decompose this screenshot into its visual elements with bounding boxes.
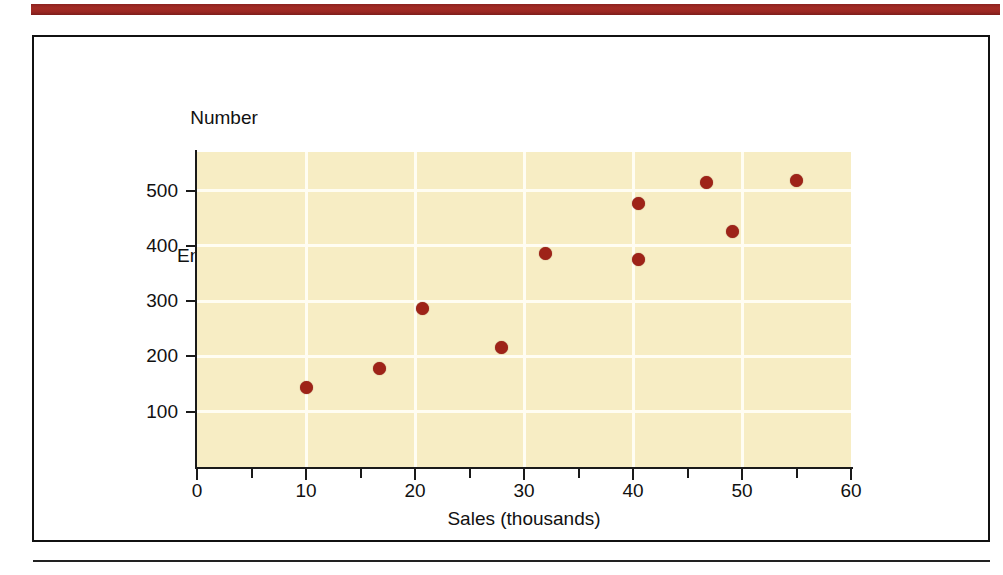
x-axis-tick-major [305,469,307,480]
y-axis-tick-label: 500 [118,180,178,202]
data-point [632,253,645,266]
y-axis-tick [186,190,197,192]
x-axis-tick-minor [360,469,362,478]
x-axis-tick-minor [469,469,471,478]
data-point [632,197,645,210]
y-axis-title-line-1: Number [129,106,319,129]
y-axis-tick [186,355,197,357]
data-point [416,302,429,315]
y-axis-tick-label: 100 [118,401,178,423]
data-point [790,174,803,187]
x-axis-tick-label: 50 [712,480,772,502]
data-point [700,176,713,189]
y-axis-tick [186,245,197,247]
x-axis-tick-major [196,469,198,480]
y-axis-tick [186,411,197,413]
x-axis-tick-major [523,469,525,480]
y-axis-tick [186,300,197,302]
x-axis-tick-label: 20 [385,480,445,502]
top-red-banner [31,4,1000,15]
gridline-vertical [305,152,308,467]
scatter-chart: Number of Employees 100200300400500 0102… [34,37,988,540]
x-axis-tick-minor [796,469,798,478]
data-point [300,381,313,394]
data-point [495,341,508,354]
x-axis-tick-major [414,469,416,480]
x-axis-tick-major [850,469,852,480]
gridline-vertical [741,152,744,467]
x-axis-tick-minor [251,469,253,478]
y-axis-tick-label: 300 [118,290,178,312]
x-axis-tick-label: 0 [167,480,227,502]
y-axis-line [195,150,197,469]
x-axis-tick-label: 40 [603,480,663,502]
data-point [726,225,739,238]
x-axis-tick-minor [578,469,580,478]
x-axis-tick-major [741,469,743,480]
plot-area [197,152,851,467]
bottom-rule [33,560,990,562]
figure-frame: Number of Employees 100200300400500 0102… [32,35,990,542]
data-point [539,247,552,260]
x-axis-tick-minor [687,469,689,478]
x-axis-tick-major [632,469,634,480]
y-axis-tick-label: 200 [118,345,178,367]
x-axis-tick-label: 10 [276,480,336,502]
x-axis-title: Sales (thousands) [197,508,851,530]
gridline-vertical [523,152,526,467]
y-axis-tick-label: 400 [118,235,178,257]
x-axis-tick-label: 30 [494,480,554,502]
x-axis-tick-label: 60 [821,480,881,502]
data-point [373,362,386,375]
